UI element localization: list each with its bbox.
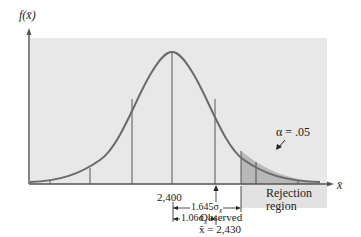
observed-up-arrow-icon	[214, 185, 219, 191]
x-axis-arrow-icon	[327, 182, 334, 187]
observed-label-line1-text: Observed	[200, 212, 242, 223]
alpha-label: α = .05	[276, 126, 310, 138]
diagram-panel	[29, 38, 327, 184]
critical-left-arrow-icon	[173, 206, 178, 210]
observed-label-line2: x̄ = 2,430	[199, 224, 241, 235]
critical-right-arrow-icon	[236, 206, 241, 210]
y-axis-label-text: f(x̄)	[19, 8, 36, 22]
x-axis-label: x̄	[337, 179, 342, 191]
y-axis-label: f(x̄)	[19, 9, 36, 21]
rejection-label-line2: region	[266, 200, 297, 212]
rejection-label-line1: Rejection	[266, 187, 312, 199]
observed-left-arrow-icon	[173, 217, 178, 221]
y-axis-arrow-icon	[27, 28, 32, 35]
mean-label: 2,400	[157, 192, 182, 203]
